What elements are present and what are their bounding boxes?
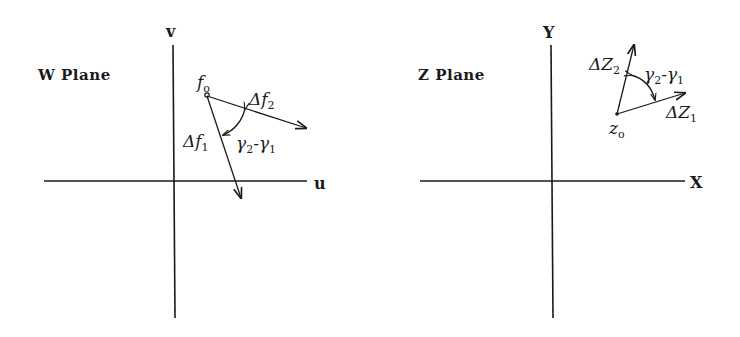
delta-z2-label: ΔZ2 [588, 54, 620, 77]
y-axis-label: Y [542, 23, 555, 42]
w-plane-panel: W Plane v u fo Δf2 Δf1 γ2-γ1 [37, 22, 326, 318]
delta-f2-label: Δf2 [248, 89, 275, 112]
x-axis-label: X [690, 173, 703, 192]
v-axis-label: v [165, 22, 176, 41]
conformal-mapping-diagram: W Plane v u fo Δf2 Δf1 γ2-γ1 Z Plane Y X… [0, 0, 740, 337]
angle-label: γ2-γ1 [236, 133, 276, 156]
w-plane-title: W Plane [37, 66, 111, 84]
z0-label: zo [608, 118, 625, 141]
f0-label: fo [195, 72, 210, 95]
z-plane-title: Z Plane [418, 66, 485, 84]
angle-label: γ2-γ1 [644, 64, 684, 87]
z-plane-panel: Z Plane Y X zo ΔZ2 ΔZ1 γ2-γ1 [418, 23, 703, 318]
u-axis-label: u [314, 174, 326, 193]
delta-f1-label: Δf1 [182, 131, 209, 154]
delta-z2-vector [617, 45, 634, 114]
delta-z1-label: ΔZ1 [665, 102, 697, 125]
angle-arc [223, 109, 245, 135]
